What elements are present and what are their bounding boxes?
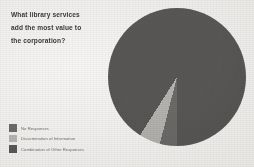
- slide-canvas: What library services add the most value…: [0, 0, 254, 167]
- chart-legend: No Responses Dissemination of Informatio…: [9, 123, 119, 155]
- legend-swatch-dissemination: [9, 135, 17, 143]
- page-title-line-3: the corporation?: [11, 35, 103, 48]
- legend-swatch-no-responses: [9, 124, 17, 132]
- page-title-line-1: What library services: [11, 9, 103, 22]
- legend-item: Dissemination of Information: [9, 134, 119, 144]
- page-title: What library services add the most value…: [11, 9, 103, 48]
- legend-label: No Responses: [21, 126, 49, 131]
- page-title-line-2: add the most value to: [11, 22, 103, 35]
- legend-item: No Responses: [9, 123, 119, 133]
- legend-label: Dissemination of Information: [21, 136, 75, 141]
- legend-label: Combination of Other Responses: [21, 147, 84, 152]
- pie-chart: [108, 8, 246, 146]
- legend-swatch-combination: [9, 145, 17, 153]
- pie-chart-slices: [108, 8, 246, 146]
- legend-item: Combination of Other Responses: [9, 144, 119, 154]
